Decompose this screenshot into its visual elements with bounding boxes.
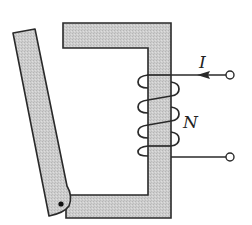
output-terminal [226,153,234,161]
relay-diagram: I N [0,0,252,225]
armature [13,29,71,216]
turns-label: N [182,112,199,132]
input-terminal [226,71,234,79]
current-label: I [198,52,206,72]
magnetic-core [63,23,171,218]
pivot-icon [58,201,63,206]
